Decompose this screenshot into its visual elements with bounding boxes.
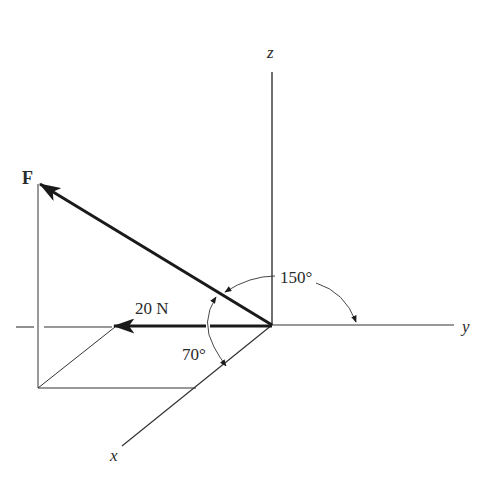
construction-lines	[38, 184, 196, 388]
angle-150-label: 150°	[280, 268, 312, 287]
y-axis-label: y	[460, 317, 470, 336]
force-diagram: z y x F 20 N	[0, 0, 483, 488]
x-axis	[122, 325, 272, 446]
angle-70-label: 70°	[182, 345, 206, 364]
angle-arc-70	[207, 297, 226, 366]
x-axis-label: x	[109, 446, 118, 465]
z-axis-label: z	[266, 43, 274, 62]
force-f-label: F	[22, 168, 33, 188]
component-20n-label: 20 N	[135, 299, 169, 318]
